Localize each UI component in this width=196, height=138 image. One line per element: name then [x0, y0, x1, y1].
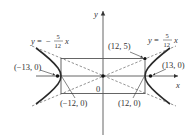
- vertex-left-label: (−12, 0): [60, 98, 88, 108]
- origin-label: 0: [96, 84, 100, 94]
- corner-label: (12, 5): [108, 41, 131, 51]
- leader-focus-left: [40, 70, 55, 75]
- svg-text:5: 5: [57, 33, 60, 40]
- hyperbola-diagram: y x 0 (−13, 0) (13, 0) (−12, 0) (12, 0) …: [0, 0, 196, 138]
- leader-vertex-left: [62, 77, 75, 98]
- svg-text:5: 5: [166, 32, 169, 39]
- svg-text:y: y: [147, 35, 152, 45]
- focus-left-point: [56, 74, 60, 78]
- leader-corner: [130, 52, 143, 58]
- svg-text:12: 12: [55, 42, 62, 49]
- svg-text:x: x: [173, 35, 178, 45]
- x-axis-label: x: [175, 80, 180, 90]
- svg-text:y: y: [30, 36, 35, 46]
- focus-right-label: (13, 0): [162, 60, 185, 70]
- focus-left-label: (−13, 0): [14, 62, 42, 72]
- asymptote-positive-label: y = 5 12 x: [147, 32, 178, 48]
- vertex-right-label: (12, 0): [118, 98, 141, 108]
- svg-text:12: 12: [164, 41, 171, 48]
- center-point: [101, 74, 105, 78]
- svg-text:−: −: [46, 36, 51, 46]
- svg-text:=: =: [154, 35, 159, 45]
- asymptote-negative-label: y = − 5 12 x: [30, 33, 69, 49]
- focus-right-point: [149, 74, 153, 78]
- y-axis-label: y: [93, 9, 98, 19]
- svg-text:=: =: [37, 36, 42, 46]
- leader-vertex-right: [133, 77, 144, 98]
- svg-text:x: x: [64, 36, 69, 46]
- corner-point: [143, 57, 146, 60]
